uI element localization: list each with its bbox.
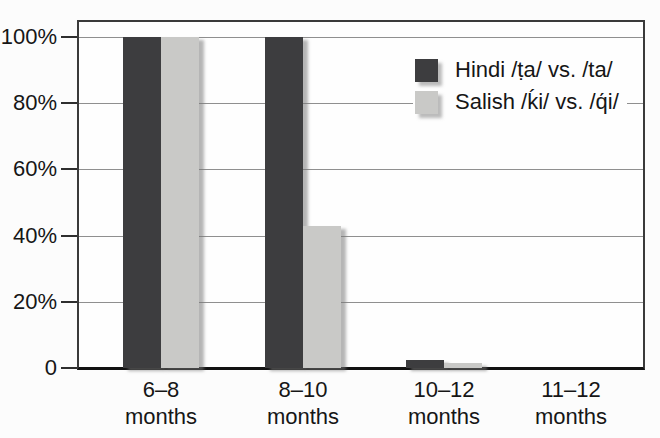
x-label-unit: months xyxy=(125,403,197,430)
y-axis-tick-0 xyxy=(61,367,77,369)
y-axis-label-20: 20% xyxy=(0,289,57,315)
x-axis-label-2: 8–10months xyxy=(267,376,339,430)
legend-key-salish-swatch xyxy=(415,91,438,114)
x-label-range: 6–8 xyxy=(125,376,197,403)
bar-salish-10-12months xyxy=(444,363,482,368)
legend-row-salish: Salish /ḱi/ vs. /q́i/ xyxy=(415,86,619,118)
x-label-range: 10–12 xyxy=(408,376,480,403)
x-axis-label-4: 11–12months xyxy=(535,376,607,430)
bar-salish-8-10months xyxy=(303,226,341,368)
y-axis-label-0: 0 xyxy=(0,355,57,381)
x-axis-label-1: 6–8months xyxy=(125,376,197,430)
legend: Hindi /ṭa/ vs. /ta/ Salish /ḱi/ vs. /q́i… xyxy=(413,54,627,120)
bar-hindi-10-12months xyxy=(406,360,444,368)
y-axis-tick-100 xyxy=(61,36,77,38)
x-label-unit: months xyxy=(408,403,480,430)
x-axis-label-3: 10–12months xyxy=(408,376,480,430)
legend-key-hindi-swatch xyxy=(415,59,438,82)
y-axis-label-100: 100% xyxy=(0,24,57,50)
legend-label-salish: Salish /ḱi/ vs. /q́i/ xyxy=(455,89,619,115)
x-label-range: 11–12 xyxy=(535,376,607,403)
x-label-range: 8–10 xyxy=(267,376,339,403)
x-label-unit: months xyxy=(267,403,339,430)
legend-row-hindi: Hindi /ṭa/ vs. /ta/ xyxy=(415,54,619,86)
y-axis-tick-80 xyxy=(61,102,77,104)
bar-salish-6-8months xyxy=(161,37,199,368)
y-axis-label-40: 40% xyxy=(0,223,57,249)
bar-hindi-6-8months xyxy=(123,37,161,368)
y-axis-tick-40 xyxy=(61,235,77,237)
x-label-unit: months xyxy=(535,403,607,430)
y-axis-tick-60 xyxy=(61,168,77,170)
bar-hindi-8-10months xyxy=(265,37,303,368)
y-axis-tick-20 xyxy=(61,301,77,303)
legend-label-hindi: Hindi /ṭa/ vs. /ta/ xyxy=(455,57,613,83)
y-axis-label-80: 80% xyxy=(0,90,57,116)
y-axis-label-60: 60% xyxy=(0,156,57,182)
